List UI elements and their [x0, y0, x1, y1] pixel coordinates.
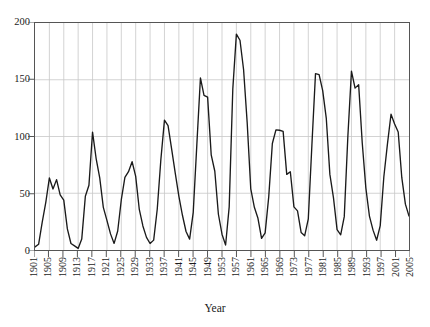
x-tick-label: 1905: [43, 257, 53, 277]
x-tick-label: 1965: [260, 257, 270, 277]
x-tick-label: 1969: [275, 257, 285, 277]
x-tick-label: 1913: [72, 257, 82, 277]
x-axis-tick-labels: 1901190519091913191719211925192919331937…: [0, 257, 430, 299]
x-tick-label: 1917: [87, 257, 97, 277]
x-tick-label: 1993: [362, 257, 372, 277]
x-tick-label: 1985: [333, 257, 343, 277]
x-tick-label: 1925: [116, 257, 126, 277]
x-tick-label: 1929: [130, 257, 140, 277]
plot-area: [34, 22, 410, 251]
x-tick-label: 1997: [376, 257, 386, 277]
x-tick-label: 1989: [347, 257, 357, 277]
x-tick-label: 1937: [159, 257, 169, 277]
x-tick-label: 1941: [174, 257, 184, 277]
x-tick-label: 1977: [304, 257, 314, 277]
x-tick-label: 1973: [289, 257, 299, 277]
x-tick-label: 2005: [405, 257, 415, 277]
x-tick-label: 1949: [203, 257, 213, 277]
x-tick-label: 1981: [318, 257, 328, 277]
x-tick-label: 1901: [29, 257, 39, 277]
x-tick-label: 1921: [101, 257, 111, 277]
x-tick-label: 1953: [217, 257, 227, 277]
x-tick-label: 2001: [391, 257, 401, 277]
x-tick-label: 1961: [246, 257, 256, 277]
x-tick-label: 1933: [145, 257, 155, 277]
x-tick-label: 1957: [231, 257, 241, 277]
x-tick-label: 1945: [188, 257, 198, 277]
sunspot-number-chart: 050100150200 190119051909191319171921192…: [0, 0, 430, 327]
sunspot-series-line: [35, 23, 409, 250]
x-tick-label: 1909: [58, 257, 68, 277]
x-axis-title: Year: [0, 302, 430, 314]
